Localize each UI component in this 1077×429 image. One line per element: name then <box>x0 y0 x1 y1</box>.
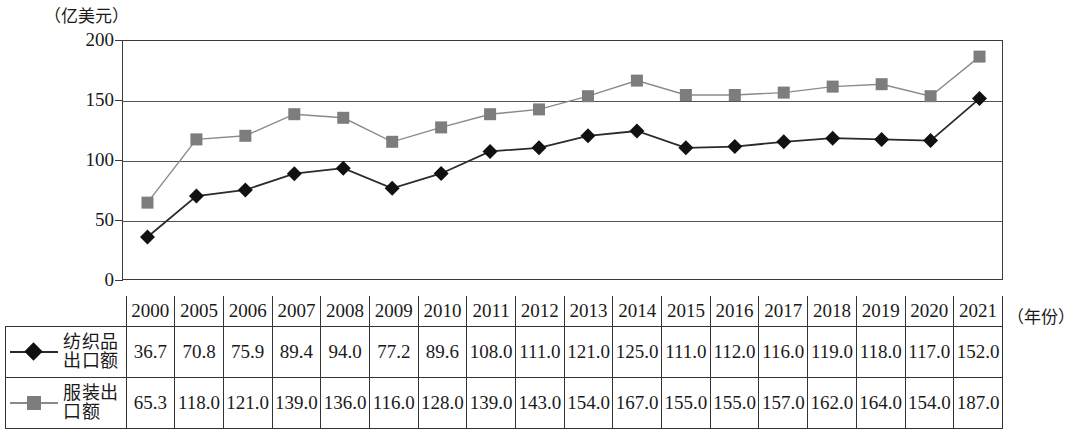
plot-area <box>122 40 1003 280</box>
data-point-square <box>141 197 153 209</box>
year-header-2005: 2005 <box>175 296 224 327</box>
year-header-2011: 2011 <box>467 296 516 327</box>
table-cell: 164.0 <box>856 378 905 429</box>
legend-label-line2: 出口额 <box>63 352 119 371</box>
data-point-square <box>239 130 251 142</box>
data-point-square <box>337 112 349 124</box>
table-cell: 36.7 <box>126 327 175 378</box>
square-icon <box>27 396 41 410</box>
year-header-2007: 2007 <box>272 296 321 327</box>
year-header-2019: 2019 <box>856 296 905 327</box>
data-table: 2000200520062007200820092010201120122013… <box>5 296 1003 429</box>
year-header-2015: 2015 <box>662 296 711 327</box>
data-point-square <box>876 78 888 90</box>
table-cell: 111.0 <box>662 327 711 378</box>
table-cell: 167.0 <box>613 378 662 429</box>
table-cell: 136.0 <box>321 378 370 429</box>
table-cell: 65.3 <box>126 378 175 429</box>
data-point-square <box>386 136 398 148</box>
year-header-2020: 2020 <box>905 296 954 327</box>
data-point-square <box>533 103 545 115</box>
data-point-diamond <box>727 139 742 154</box>
table-cell: 116.0 <box>759 327 808 378</box>
data-point-diamond <box>434 166 449 181</box>
table-cell: 118.0 <box>175 378 224 429</box>
table-cell: 162.0 <box>808 378 857 429</box>
series-legend-2: 服装出口额 <box>6 378 127 429</box>
data-point-diamond <box>874 132 889 147</box>
data-point-square <box>729 89 741 101</box>
table-cell: 121.0 <box>223 378 272 429</box>
table-cell: 121.0 <box>564 327 613 378</box>
data-point-square <box>680 89 692 101</box>
data-point-square <box>190 133 202 145</box>
series-line-1 <box>147 99 979 237</box>
table-row: 纺织品出口额36.770.875.989.494.077.289.6108.01… <box>6 327 1003 378</box>
table-cell: 116.0 <box>369 378 418 429</box>
table-cell: 154.0 <box>905 378 954 429</box>
data-point-square <box>974 51 986 63</box>
y-tick-mark-0 <box>115 280 123 281</box>
table-cell: 157.0 <box>759 378 808 429</box>
y-tick-label-100: 100 <box>58 150 114 169</box>
data-point-square <box>435 121 447 133</box>
legend-label-line1: 纺织品 <box>63 333 119 352</box>
series-legend-label: 纺织品出口额 <box>63 333 119 371</box>
table-cell: 119.0 <box>808 327 857 378</box>
table-cell: 112.0 <box>710 327 759 378</box>
table-cell: 152.0 <box>954 327 1003 378</box>
data-point-diamond <box>825 131 840 146</box>
data-point-diamond <box>629 124 644 139</box>
series-2 <box>141 51 985 209</box>
data-point-square <box>778 87 790 99</box>
data-point-square <box>925 90 937 102</box>
data-point-square <box>288 108 300 120</box>
table-row: 服装出口额65.3118.0121.0139.0136.0116.0128.01… <box>6 378 1003 429</box>
table-cell: 187.0 <box>954 378 1003 429</box>
y-tick-label-50: 50 <box>58 210 114 229</box>
table-cell: 155.0 <box>662 378 711 429</box>
data-point-diamond <box>238 182 253 197</box>
data-point-diamond <box>385 181 400 196</box>
diamond-icon <box>24 342 42 360</box>
square-marker <box>10 395 58 411</box>
series-legend-1: 纺织品出口额 <box>6 327 127 378</box>
diamond-marker <box>10 344 58 360</box>
data-point-diamond <box>580 128 595 143</box>
year-header-2021: 2021 <box>954 296 1003 327</box>
table-cell: 125.0 <box>613 327 662 378</box>
year-header-2006: 2006 <box>223 296 272 327</box>
table-cell: 75.9 <box>223 327 272 378</box>
line-chart: 050100150200 <box>0 0 1077 300</box>
table-cell: 139.0 <box>272 378 321 429</box>
table-year-header-row: 2000200520062007200820092010201120122013… <box>6 296 1003 327</box>
year-header-2016: 2016 <box>710 296 759 327</box>
year-header-2008: 2008 <box>321 296 370 327</box>
data-point-diamond <box>776 134 791 149</box>
data-point-diamond <box>336 161 351 176</box>
year-header-2017: 2017 <box>759 296 808 327</box>
legend-label-line1: 服装出 <box>63 384 119 403</box>
table-cell: 77.2 <box>369 327 418 378</box>
y-tick-label-0: 0 <box>58 270 114 289</box>
data-point-square <box>827 81 839 93</box>
data-point-diamond <box>532 140 547 155</box>
table-cell: 70.8 <box>175 327 224 378</box>
data-point-diamond <box>483 144 498 159</box>
table-cell: 94.0 <box>321 327 370 378</box>
series-legend-label: 服装出口额 <box>63 384 119 422</box>
year-header-2018: 2018 <box>808 296 857 327</box>
table-cell: 89.6 <box>418 327 467 378</box>
table-cell: 108.0 <box>467 327 516 378</box>
table-cell: 89.4 <box>272 327 321 378</box>
data-point-square <box>582 90 594 102</box>
x-axis-unit-label: （年份） <box>1007 303 1075 328</box>
series-1 <box>140 91 987 244</box>
table-cell: 143.0 <box>516 378 565 429</box>
table-cell: 118.0 <box>856 327 905 378</box>
year-header-2010: 2010 <box>418 296 467 327</box>
table-corner-spacer <box>6 296 127 327</box>
y-tick-label-150: 150 <box>58 90 114 109</box>
year-header-2009: 2009 <box>369 296 418 327</box>
